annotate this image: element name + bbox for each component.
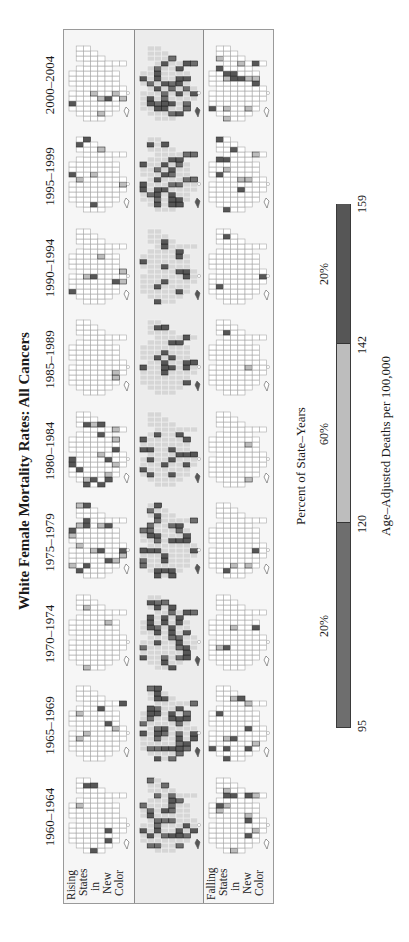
row-falling: Falling States in New Color xyxy=(204,30,273,903)
state-map xyxy=(138,411,202,489)
period-label: 1965–1969 xyxy=(42,686,58,766)
period-label: 1980–1984 xyxy=(42,411,58,491)
legend-tick-142: 142 xyxy=(355,336,370,354)
legend-tick-95: 95 xyxy=(355,720,370,732)
legend-pct-high: 20% xyxy=(317,263,332,285)
period-label: 1985–1989 xyxy=(42,320,58,400)
state-map xyxy=(138,686,202,764)
legend-tick-120: 120 xyxy=(355,515,370,533)
period-label: 2000–2004 xyxy=(42,45,58,125)
state-map xyxy=(138,45,202,123)
legend-tick-159: 159 xyxy=(355,195,370,213)
state-map xyxy=(67,777,131,855)
figure-canvas: White Female Mortality Rates: All Cancer… xyxy=(0,0,409,942)
state-map xyxy=(67,594,131,672)
state-map xyxy=(138,228,202,306)
period-label: 1970–1974 xyxy=(42,594,58,674)
legend-color-bar xyxy=(336,204,351,728)
state-map xyxy=(138,320,202,398)
legend-pct-mid: 60% xyxy=(317,423,332,445)
state-map xyxy=(138,503,202,581)
state-map xyxy=(207,411,271,489)
state-map xyxy=(67,503,131,581)
micromap-frame: Rising States in New Color Falling State… xyxy=(63,29,274,904)
period-label: 1975–1979 xyxy=(42,503,58,583)
state-map xyxy=(67,686,131,764)
state-map xyxy=(138,777,202,855)
legend-title: Percent of State–Years xyxy=(293,407,309,525)
row-all-states xyxy=(134,30,204,903)
period-label: 1990–1994 xyxy=(42,228,58,308)
legend-segment-low xyxy=(337,523,350,727)
state-map xyxy=(207,320,271,398)
row-label-rising: Rising States in New Color xyxy=(65,869,125,900)
legend-pct-low: 20% xyxy=(317,615,332,637)
period-label: 1995–1999 xyxy=(42,137,58,217)
state-map xyxy=(207,777,271,855)
state-map xyxy=(67,411,131,489)
state-map xyxy=(138,137,202,215)
row-label-falling: Falling States in New Color xyxy=(205,867,265,900)
state-map xyxy=(207,503,271,581)
state-map xyxy=(207,137,271,215)
state-map xyxy=(67,228,131,306)
state-map xyxy=(207,228,271,306)
state-map xyxy=(138,594,202,672)
state-map xyxy=(207,45,271,123)
legend-segment-high xyxy=(337,204,350,344)
state-map xyxy=(67,320,131,398)
legend-axis-title: Age–Adjusted Deaths per 100,000 xyxy=(378,356,394,536)
period-label: 1960–1964 xyxy=(42,777,58,857)
state-map xyxy=(67,45,131,123)
state-map xyxy=(207,686,271,764)
legend-segment-mid xyxy=(337,343,350,523)
state-map xyxy=(207,594,271,672)
chart-title: White Female Mortality Rates: All Cancer… xyxy=(16,0,33,942)
row-rising: Rising States in New Color xyxy=(64,30,134,903)
state-map xyxy=(67,137,131,215)
